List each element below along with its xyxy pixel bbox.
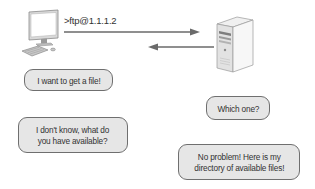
client-bubble-request-file: I want to get a file! [24,69,113,91]
server-bubble-which-one: Which one? [206,96,270,120]
client-bubble-what-available: I don't know, what do you have available… [18,117,128,153]
bubble-text: No problem! Here is my directory of avai… [194,151,284,173]
bubble-text: I want to get a file! [37,75,100,86]
server-tower-icon [213,14,259,76]
request-arrow-icon [62,27,204,37]
bubble-text: I don't know, what do you have available… [36,124,109,146]
response-arrow-icon [146,42,216,52]
ftp-command-label: >ftp@1.1.1.2 [64,15,116,26]
server-bubble-directory-listing: No problem! Here is my directory of avai… [178,144,300,180]
bubble-text: Which one? [217,103,259,114]
desktop-computer-icon [20,8,65,60]
